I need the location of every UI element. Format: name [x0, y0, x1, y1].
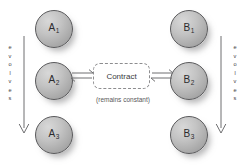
node-a2-label: A2 [48, 75, 59, 87]
evolves-letter: v [234, 52, 237, 61]
evolves-letter: v [9, 77, 12, 86]
evolves-letter: e [233, 86, 236, 95]
evolves-down-arrow-right [213, 36, 229, 136]
evolves-letter: l [9, 69, 10, 78]
evolves-letter: o [233, 60, 236, 69]
node-a3[interactable]: A3 [35, 116, 73, 154]
node-b3[interactable]: B3 [170, 116, 208, 154]
diagram-canvas: e v o l v e s e v o l v e s [0, 0, 243, 168]
remains-constant-caption: (remains constant) [78, 96, 168, 103]
evolves-down-arrow-left [16, 36, 32, 136]
node-b1[interactable]: B1 [170, 10, 208, 48]
evolves-label-right: e v o l v e s [229, 36, 241, 103]
equilibrium-arrow-right-icon [150, 68, 174, 82]
contract-label: Contract [106, 72, 136, 81]
evolves-label-left: e v o l v e s [4, 36, 16, 103]
node-b2[interactable]: B2 [170, 62, 208, 100]
evolves-letter: e [8, 86, 11, 95]
evolves-column-right: e v o l v e s [205, 36, 241, 136]
evolves-letter: l [234, 69, 235, 78]
node-b2-label: B2 [183, 75, 194, 87]
node-a3-label: A3 [48, 129, 59, 141]
evolves-letter: s [234, 94, 237, 103]
node-a1-label: A1 [48, 23, 59, 35]
node-b1-label: B1 [183, 23, 194, 35]
node-a2[interactable]: A2 [35, 62, 73, 100]
node-a1[interactable]: A1 [35, 10, 73, 48]
evolves-letter: v [9, 52, 12, 61]
evolves-column-left: e v o l v e s [4, 36, 40, 136]
contract-box[interactable]: Contract [93, 63, 150, 89]
evolves-letter: o [8, 60, 11, 69]
evolves-letter: e [233, 43, 236, 52]
node-b3-label: B3 [183, 129, 194, 141]
evolves-letter: e [8, 43, 11, 52]
equilibrium-arrow-left-icon [70, 68, 94, 82]
evolves-letter: v [234, 77, 237, 86]
evolves-letter: s [9, 94, 12, 103]
